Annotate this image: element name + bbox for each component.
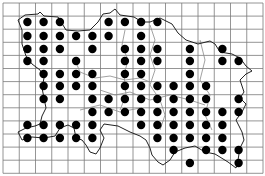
occurrence-dot (153, 57, 161, 65)
occurrence-dot (56, 121, 64, 129)
occurrence-dot (137, 108, 145, 116)
occurrence-dot (56, 70, 64, 78)
occurrence-dot (39, 57, 47, 65)
occurrence-dot (121, 95, 129, 103)
occurrence-dot (218, 134, 226, 142)
occurrence-dot (56, 82, 64, 90)
occurrence-dot (153, 82, 161, 90)
occurrence-dot (218, 146, 226, 154)
occurrence-dot (153, 134, 161, 142)
occurrence-dot (169, 146, 177, 154)
occurrence-dot (218, 108, 226, 116)
occurrence-dot (39, 70, 47, 78)
occurrence-dot (72, 82, 80, 90)
occurrence-dot (218, 57, 226, 65)
occurrence-dot (88, 45, 96, 53)
occurrence-dot (186, 95, 194, 103)
occurrence-dot (88, 32, 96, 40)
occurrence-dot (88, 95, 96, 103)
occurrence-dot (218, 121, 226, 129)
occurrence-dot (23, 121, 31, 129)
occurrence-dot (56, 18, 64, 26)
occurrence-dot (202, 146, 210, 154)
occurrence-dot (234, 159, 242, 167)
occurrence-dot (23, 32, 31, 40)
occurrence-dot (121, 57, 129, 65)
occurrence-dot (72, 32, 80, 40)
occurrence-dot (202, 82, 210, 90)
occurrence-dot (121, 18, 129, 26)
occurrence-dot (169, 121, 177, 129)
occurrence-dot (202, 121, 210, 129)
occurrence-dot (56, 134, 64, 142)
occurrence-dot (202, 95, 210, 103)
occurrence-dot (202, 108, 210, 116)
occurrence-dot (39, 45, 47, 53)
occurrence-dot (88, 82, 96, 90)
occurrence-dot (137, 32, 145, 40)
occurrence-dot (186, 108, 194, 116)
distribution-map (0, 0, 265, 176)
occurrence-dot (121, 108, 129, 116)
occurrence-dot (153, 45, 161, 53)
occurrence-dot (137, 18, 145, 26)
occurrence-dot (234, 95, 242, 103)
occurrence-dot (153, 95, 161, 103)
occurrence-dot (56, 95, 64, 103)
occurrence-dot (202, 134, 210, 142)
occurrence-dot (169, 108, 177, 116)
occurrence-dot (234, 108, 242, 116)
occurrence-dot (137, 45, 145, 53)
occurrence-dot (39, 32, 47, 40)
occurrence-dot (186, 159, 194, 167)
occurrence-dot (56, 32, 64, 40)
occurrence-dot (186, 45, 194, 53)
occurrence-dot (137, 70, 145, 78)
occurrence-dot (23, 45, 31, 53)
occurrence-dot (169, 95, 177, 103)
occurrence-dot (88, 108, 96, 116)
occurrence-dot (169, 82, 177, 90)
occurrence-dot (88, 121, 96, 129)
occurrence-dot (234, 57, 242, 65)
occurrence-dot (153, 108, 161, 116)
occurrence-dot (88, 70, 96, 78)
occurrence-dot (186, 134, 194, 142)
occurrence-dot (121, 45, 129, 53)
occurrence-dot (39, 95, 47, 103)
coastline (18, 9, 252, 168)
occurrence-dot (72, 121, 80, 129)
occurrence-dot (72, 70, 80, 78)
occurrence-dot (72, 134, 80, 142)
occurrence-dot (39, 134, 47, 142)
occurrence-dot (218, 45, 226, 53)
occurrence-dot (137, 57, 145, 65)
occurrence-dot (234, 146, 242, 154)
occurrence-dot (39, 121, 47, 129)
occurrence-dot (153, 121, 161, 129)
occurrence-dot (88, 134, 96, 142)
occurrence-dot (39, 18, 47, 26)
occurrence-dot (104, 18, 112, 26)
occurrence-dot (56, 45, 64, 53)
occurrence-dot (186, 82, 194, 90)
occurrence-dot (23, 18, 31, 26)
occurrence-dot (23, 57, 31, 65)
occurrence-dot (153, 18, 161, 26)
occurrence-dot (104, 108, 112, 116)
occurrence-dot (121, 70, 129, 78)
occurrence-dot (104, 95, 112, 103)
occurrence-dot (23, 134, 31, 142)
occurrence-dot (137, 95, 145, 103)
occurrence-dot (72, 57, 80, 65)
occurrence-dot (104, 32, 112, 40)
occurrence-dot (169, 134, 177, 142)
occurrence-dot (186, 70, 194, 78)
occurrence-dot (137, 121, 145, 129)
occurrence-dot (121, 82, 129, 90)
occurrence-dot (137, 82, 145, 90)
occurrence-dot (39, 82, 47, 90)
occurrence-dot (186, 57, 194, 65)
occurrence-dot (186, 121, 194, 129)
